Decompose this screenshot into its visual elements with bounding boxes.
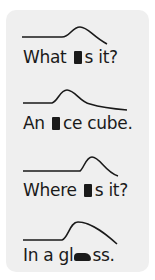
phrase-text-after: s it? (95, 180, 128, 200)
phrase-2: An ce cube. (23, 113, 133, 133)
stressed-vowel-marker (52, 117, 60, 130)
contour-line-4 (23, 222, 117, 244)
phrase-4: In a glss. (23, 245, 115, 265)
stressed-vowel-marker (74, 51, 82, 64)
phrase-text-after: ce cube. (63, 113, 133, 133)
intonation-contours (0, 0, 155, 280)
phrase-text-after: ss. (92, 245, 114, 265)
contour-line-3 (23, 157, 118, 176)
phrase-text-before: In a gl (23, 245, 73, 265)
contour-line-1 (22, 27, 107, 44)
phrase-text-before: What (23, 47, 72, 67)
stressed-vowel-marker (74, 253, 91, 261)
phrase-1: What s it? (23, 47, 118, 67)
phrase-text-before: Where (23, 180, 82, 200)
phrase-text-after: s it? (85, 47, 118, 67)
phrase-3: Where s it? (23, 180, 128, 200)
stressed-vowel-marker (84, 184, 92, 197)
phrase-text-before: An (23, 113, 50, 133)
contour-line-2 (23, 90, 127, 110)
